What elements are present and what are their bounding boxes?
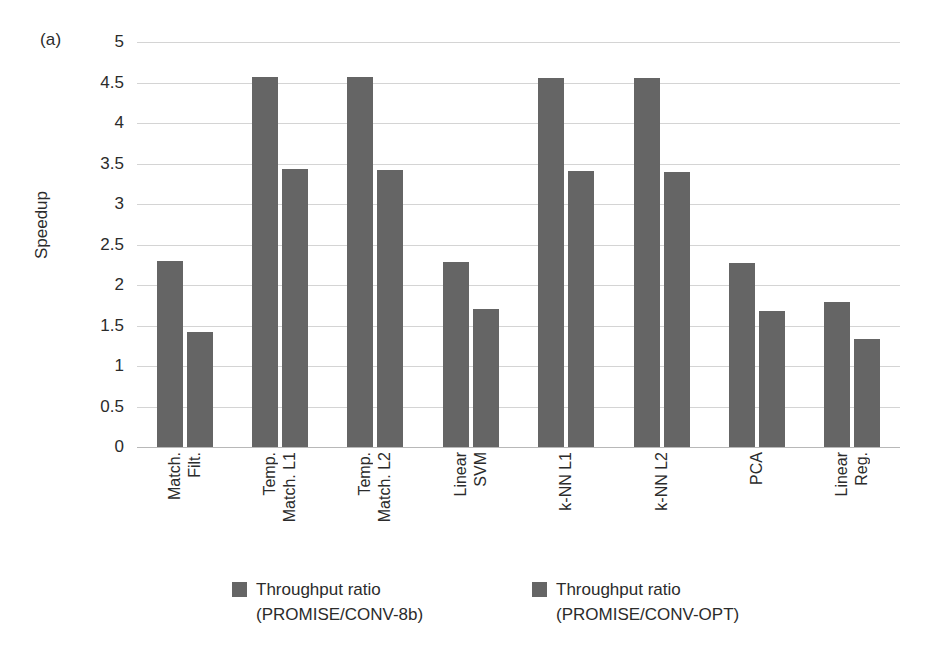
y-tick-label: 1.5 bbox=[72, 316, 124, 336]
plot-area bbox=[137, 42, 900, 447]
legend-entry[interactable]: Throughput ratio(PROMISE/CONV-OPT) bbox=[532, 578, 739, 627]
y-tick-label: 2.5 bbox=[72, 235, 124, 255]
bar bbox=[854, 339, 880, 447]
bar bbox=[538, 78, 564, 447]
bar bbox=[443, 262, 469, 447]
x-category-label-line: Temp. bbox=[262, 452, 278, 496]
x-category-label-line: Match. L2 bbox=[377, 452, 393, 522]
y-tick-label: 2 bbox=[72, 275, 124, 295]
x-category-label-line: PCA bbox=[749, 452, 765, 485]
bar-group bbox=[232, 42, 327, 447]
bar bbox=[377, 170, 403, 447]
bar bbox=[252, 77, 278, 447]
bar bbox=[759, 311, 785, 447]
bar-group bbox=[805, 42, 900, 447]
x-category-label-line: Match. bbox=[167, 452, 183, 500]
x-category-label-line: Temp. bbox=[357, 452, 373, 496]
bar-group bbox=[137, 42, 232, 447]
x-category-label: Temp.Match. L1 bbox=[252, 452, 308, 570]
x-category-label-line: Match. L1 bbox=[282, 452, 298, 522]
bar-group bbox=[709, 42, 804, 447]
x-category-label-line: k-NN L1 bbox=[558, 452, 574, 511]
bar bbox=[634, 78, 660, 447]
legend-swatch bbox=[232, 582, 247, 597]
y-tick-label: 4 bbox=[72, 113, 124, 133]
y-tick-label: 0.5 bbox=[72, 397, 124, 417]
bar bbox=[187, 332, 213, 447]
chart-legend: Throughput ratio(PROMISE/CONV-8b)Through… bbox=[137, 578, 900, 648]
y-tick-label: 0 bbox=[72, 437, 124, 457]
bar bbox=[568, 171, 594, 447]
bar bbox=[282, 169, 308, 447]
x-category-label-line: k-NN L2 bbox=[654, 452, 670, 511]
bar bbox=[664, 172, 690, 447]
legend-label: Throughput ratio(PROMISE/CONV-OPT) bbox=[556, 578, 739, 627]
y-tick-label: 4.5 bbox=[72, 73, 124, 93]
bar-group bbox=[519, 42, 614, 447]
bar-group bbox=[423, 42, 518, 447]
bar bbox=[157, 261, 183, 447]
x-category-label: LinearSVM bbox=[443, 452, 499, 570]
bar-group bbox=[614, 42, 709, 447]
legend-swatch bbox=[532, 582, 547, 597]
figure-panel: (a) Speedup 00.511.522.533.544.55 Match.… bbox=[0, 0, 945, 665]
legend-entry[interactable]: Throughput ratio(PROMISE/CONV-8b) bbox=[232, 578, 423, 627]
x-category-label: k-NN L1 bbox=[538, 452, 594, 570]
x-category-label-line: Filt. bbox=[187, 452, 203, 478]
x-category-label: Temp.Match. L2 bbox=[347, 452, 403, 570]
x-category-label-line: Linear bbox=[453, 452, 469, 496]
gridline bbox=[137, 447, 900, 448]
y-tick-label: 5 bbox=[72, 32, 124, 52]
bar bbox=[347, 77, 373, 447]
x-category-label-line: Linear bbox=[834, 452, 850, 496]
y-tick-label: 3.5 bbox=[72, 154, 124, 174]
x-category-label: LinearReg. bbox=[824, 452, 880, 570]
bar bbox=[473, 309, 499, 447]
x-category-label: Match.Filt. bbox=[157, 452, 213, 570]
y-tick-label: 3 bbox=[72, 194, 124, 214]
x-category-label: k-NN L2 bbox=[634, 452, 690, 570]
x-category-label: PCA bbox=[729, 452, 785, 570]
legend-label: Throughput ratio(PROMISE/CONV-8b) bbox=[256, 578, 423, 627]
bar bbox=[729, 263, 755, 447]
x-category-label-line: Reg. bbox=[854, 452, 870, 486]
bar-group bbox=[328, 42, 423, 447]
y-tick-label: 1 bbox=[72, 356, 124, 376]
x-axis-category-labels: Match.Filt.Temp.Match. L1Temp.Match. L2L… bbox=[137, 452, 900, 572]
bar bbox=[824, 302, 850, 447]
x-category-label-line: SVM bbox=[473, 452, 489, 487]
